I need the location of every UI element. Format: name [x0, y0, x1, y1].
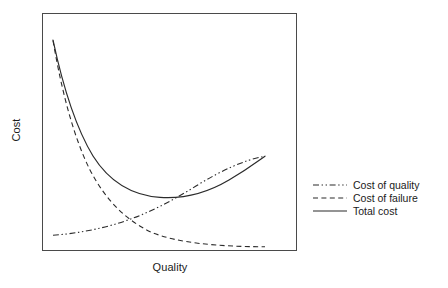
dash-dot-dot-line-key: [313, 180, 347, 190]
legend-label-cost-of-failure: Cost of failure: [353, 192, 418, 204]
y-axis-label: Cost: [10, 110, 22, 150]
legend-item-cost-of-failure: Cost of failure: [313, 192, 445, 204]
solid-line-key: [313, 206, 347, 216]
dashed-line-key: [313, 193, 347, 203]
cost-of-quality-chart: Cost Quality Cost of quality Cost of fai…: [0, 0, 448, 288]
y-axis-label-container: Cost: [0, 112, 40, 152]
legend-label-total-cost: Total cost: [353, 205, 397, 217]
legend-label-cost-of-quality: Cost of quality: [353, 179, 420, 191]
legend-item-cost-of-quality: Cost of quality: [313, 179, 445, 191]
chart-canvas: [0, 0, 448, 288]
x-axis-label: Quality: [141, 261, 199, 273]
chart-legend: Cost of quality Cost of failure Total co…: [313, 179, 445, 218]
legend-item-total-cost: Total cost: [313, 205, 445, 217]
